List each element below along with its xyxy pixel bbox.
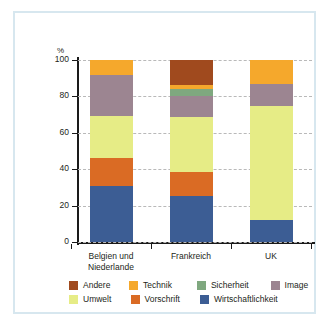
x-tick-0 <box>71 244 72 249</box>
bar-segment-sicherheit <box>170 89 213 96</box>
bar-segment-umwelt <box>170 117 213 172</box>
legend-label-image: Image <box>285 280 309 290</box>
bar-segment-wirtschaftlichkeit <box>170 196 213 242</box>
x-label-line: Belgien und <box>65 251 157 262</box>
bar-segment-umwelt <box>250 106 293 220</box>
legend-label-sicherheit: Sicherheit <box>211 280 249 290</box>
bar-segment-image <box>90 75 133 117</box>
legend-swatch-wirtschaftlichkeit <box>200 295 209 304</box>
x-label-line: Frankreich <box>145 251 237 262</box>
bar-frankreich <box>170 60 213 242</box>
bar-segment-andere <box>170 60 213 85</box>
x-axis-label-2: UK <box>225 251 317 262</box>
x-tick-1 <box>151 244 152 249</box>
legend-swatch-andere <box>69 281 78 290</box>
gridline-0 <box>78 242 312 243</box>
bar-uk <box>250 60 293 242</box>
chart-frame: % 100806040200 Belgien undNiederlandeFra… <box>13 11 316 314</box>
x-tick-2 <box>231 244 232 249</box>
legend-item-andere: Andere <box>69 280 129 290</box>
bar-belgien-und-niederlande <box>90 60 133 242</box>
bar-segment-image <box>170 96 213 117</box>
x-label-line: UK <box>225 251 317 262</box>
legend-item-image: Image <box>271 280 319 290</box>
bar-segment-technik <box>250 60 293 84</box>
bar-segment-image <box>250 84 293 107</box>
bar-segment-vorschrift <box>90 158 133 186</box>
legend-swatch-image <box>271 281 280 290</box>
bar-segment-wirtschaftlichkeit <box>90 186 133 242</box>
bar-segment-wirtschaftlichkeit <box>250 220 293 242</box>
legend-label-umwelt: Umwelt <box>83 294 111 304</box>
legend-label-wirtschaftlichkeit: Wirtschaftlichkeit <box>214 294 278 304</box>
y-tick-label-40: 40 <box>39 164 69 173</box>
legend-label-andere: Andere <box>83 280 110 290</box>
legend-label-technik: Technik <box>143 280 172 290</box>
bar-segment-umwelt <box>90 116 133 158</box>
x-axis-label-1: Frankreich <box>145 251 237 262</box>
y-tick-label-100: 100 <box>39 55 69 64</box>
bar-segment-vorschrift <box>170 172 213 197</box>
y-tick-label-0: 0 <box>39 237 69 246</box>
y-tick-label-20: 20 <box>39 201 69 210</box>
x-axis-label-0: Belgien undNiederlande <box>65 251 157 273</box>
chart-figure: % 100806040200 Belgien undNiederlandeFra… <box>0 0 330 327</box>
x-tick-end <box>311 244 312 249</box>
legend-swatch-umwelt <box>69 295 78 304</box>
legend-row-1: AndereTechnikSicherheitImage <box>69 278 319 292</box>
x-label-line: Niederlande <box>65 262 157 273</box>
legend-swatch-technik <box>129 281 138 290</box>
legend-item-vorschrift: Vorschrift <box>131 294 200 304</box>
legend-label-vorschrift: Vorschrift <box>145 294 180 304</box>
y-tick-label-60: 60 <box>39 128 69 137</box>
legend-swatch-sicherheit <box>197 281 206 290</box>
y-tick-label-80: 80 <box>39 91 69 100</box>
legend-item-sicherheit: Sicherheit <box>197 280 271 290</box>
legend-item-wirtschaftlichkeit: Wirtschaftlichkeit <box>200 294 319 304</box>
legend-swatch-vorschrift <box>131 295 140 304</box>
legend-item-technik: Technik <box>129 280 197 290</box>
legend-item-umwelt: Umwelt <box>69 294 131 304</box>
bar-segment-technik <box>90 60 133 75</box>
legend-row-2: UmweltVorschriftWirtschaftlichkeit <box>69 292 319 306</box>
chart-legend: AndereTechnikSicherheitImage UmweltVorsc… <box>69 278 319 306</box>
